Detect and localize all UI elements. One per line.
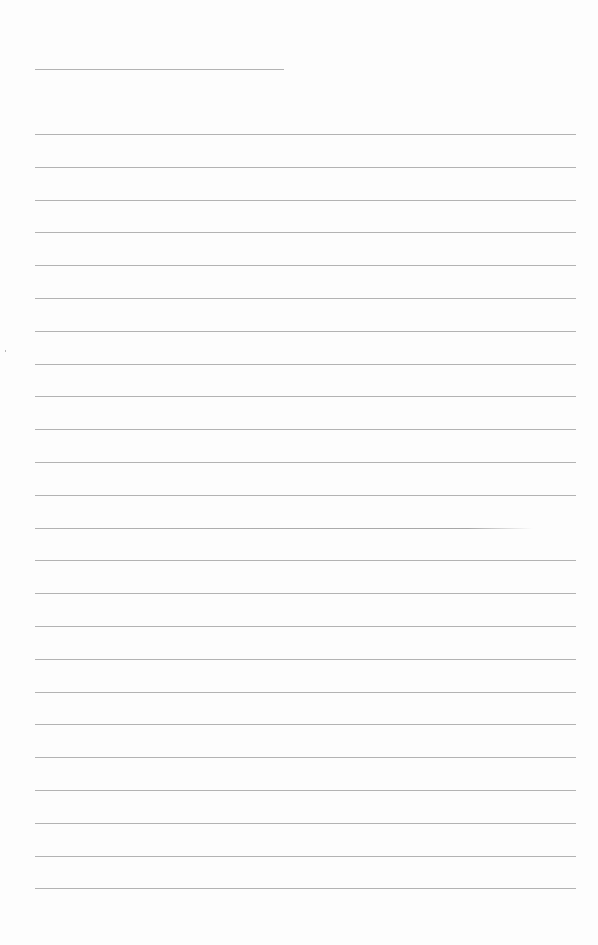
- scan-speck: [5, 350, 6, 352]
- ruled-line: [35, 888, 576, 889]
- ruled-line: [35, 593, 576, 594]
- ruled-line: [35, 396, 576, 397]
- ruled-line: [35, 462, 576, 463]
- ruled-line: [35, 659, 576, 660]
- ruled-line: [35, 626, 576, 627]
- ruled-line: [35, 692, 576, 693]
- ruled-line: [35, 134, 576, 135]
- ruled-line: [35, 790, 576, 791]
- ruled-line: [35, 232, 576, 233]
- ruled-line: [35, 298, 576, 299]
- ruled-line: [35, 364, 576, 365]
- ruled-line: [35, 724, 576, 725]
- header-line: [35, 69, 284, 70]
- lined-page: [0, 0, 598, 945]
- ruled-line: [35, 528, 576, 529]
- ruled-line: [35, 200, 576, 201]
- ruled-line: [35, 331, 576, 332]
- ruled-line: [35, 757, 576, 758]
- ruled-line: [35, 265, 576, 266]
- ruled-line: [35, 823, 576, 824]
- ruled-line: [35, 560, 576, 561]
- ruled-line: [35, 856, 576, 857]
- ruled-line: [35, 429, 576, 430]
- ruled-line: [35, 167, 576, 168]
- ruled-line: [35, 495, 576, 496]
